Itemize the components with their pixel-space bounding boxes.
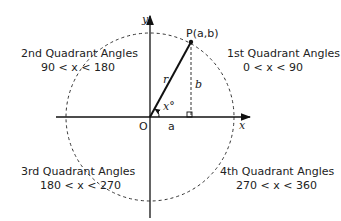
angle-label: x° xyxy=(163,100,175,113)
horizontal-label: a xyxy=(168,120,175,133)
point-p xyxy=(189,40,193,44)
q2-range: 90 < x < 180 xyxy=(41,61,115,74)
vertical-label: b xyxy=(195,78,202,91)
q4-title: 4th Quadrant Angles xyxy=(220,165,334,178)
y-axis-label: y xyxy=(141,13,149,26)
point-label: P(a,b) xyxy=(186,27,218,40)
q1-range: 0 < x < 90 xyxy=(243,61,303,74)
angle-arc xyxy=(155,109,159,117)
origin-label: O xyxy=(139,120,148,133)
q1-title: 1st Quadrant Angles xyxy=(227,47,340,60)
q3-range: 180 < x < 270 xyxy=(40,179,121,192)
x-axis-label: x xyxy=(239,119,246,132)
q3-title: 3rd Quadrant Angles xyxy=(21,165,136,178)
q4-range: 270 < x < 360 xyxy=(236,179,317,192)
unit-circle-diagram: y x O P(a,b) r b a x° 1st Quadrant Angle… xyxy=(0,0,341,221)
q2-title: 2nd Quadrant Angles xyxy=(21,47,138,60)
radius-label: r xyxy=(163,73,169,86)
